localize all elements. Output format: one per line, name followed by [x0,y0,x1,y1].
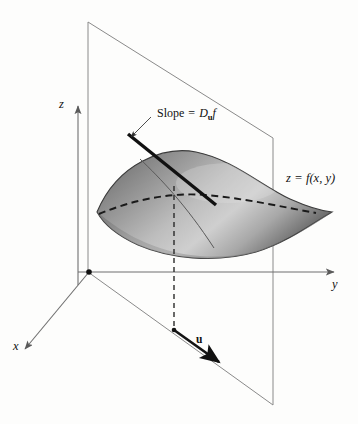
slope-word: Slope [157,106,184,120]
eq-z: z [285,171,291,185]
u-vector-label: u [196,333,203,345]
z-axis-label: z [58,97,64,111]
slope-D: D [198,106,208,120]
u-vector-base-dot [172,328,177,333]
svg-text:z=f(x, y): z=f(x, y) [285,171,335,185]
y-axis-label: y [330,277,338,291]
directional-derivative-diagram: z y x u Slope=Duf z=f(x, y) [0,0,358,424]
x-axis-line [25,272,89,349]
x-axis-label: x [12,339,19,353]
origin-dot [86,269,92,275]
slope-equals: = [188,106,195,120]
eq-args: (x, y) [309,171,335,185]
surface-equation-label: z=f(x, y) [285,171,335,185]
eq-equals: = [295,171,302,185]
figure-root: z y x u Slope=Duf z=f(x, y) [0,0,358,424]
